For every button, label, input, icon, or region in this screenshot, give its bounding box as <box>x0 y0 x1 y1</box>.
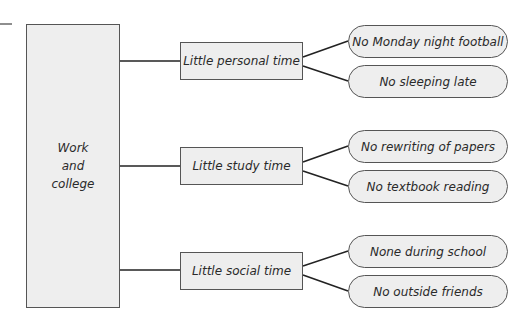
leaf-label: No Monday night football <box>352 35 503 49</box>
leaf-label: None during school <box>370 245 486 259</box>
leaf-label: No outside friends <box>373 285 483 299</box>
leaf-label: No sleeping late <box>379 75 476 89</box>
leaf-node: None during school <box>348 235 508 268</box>
leaf-node: No rewriting of papers <box>348 130 508 163</box>
root-node-work-and-college: Work and college <box>26 24 120 308</box>
branch-label: Little study time <box>192 159 290 173</box>
leaf-label: No textbook reading <box>367 180 490 194</box>
leaf-label: No rewriting of papers <box>361 140 495 154</box>
branch-node-study-time: Little study time <box>180 147 303 185</box>
root-line: Work <box>52 139 95 157</box>
branch-label: Little personal time <box>183 54 300 68</box>
leaf-node: No outside friends <box>348 275 508 308</box>
branch-node-social-time: Little social time <box>180 252 303 290</box>
root-line: college <box>52 175 95 193</box>
branch-node-personal-time: Little personal time <box>180 42 303 80</box>
root-line: and <box>52 157 95 175</box>
branch-label: Little social time <box>192 264 291 278</box>
leaf-node: No sleeping late <box>348 65 508 98</box>
leaf-node: No textbook reading <box>348 170 508 203</box>
leaf-node: No Monday night football <box>348 25 508 58</box>
